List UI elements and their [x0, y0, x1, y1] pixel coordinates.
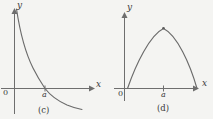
panel-d: y x 0 a (d) — [106, 0, 213, 119]
panel-c-origin-label: 0 — [3, 89, 8, 97]
panel-c-x-axis-label: x — [96, 80, 101, 89]
panel-d-curve — [128, 29, 198, 89]
panel-d-tick-label-a: a — [161, 91, 166, 99]
panel-c-plot — [0, 0, 106, 119]
panel-d-caption: (d) — [157, 104, 169, 113]
panel-d-y-axis-label: y — [127, 3, 132, 12]
panel-c-caption: (c) — [38, 106, 49, 115]
panel-d-plot — [106, 0, 213, 119]
panel-d-vertex-dot — [162, 27, 165, 30]
panel-c: y x 0 a (c) — [0, 0, 106, 119]
figure-container: y x 0 a (c) y x 0 a (d) — [0, 0, 213, 119]
panel-d-x-axis-label: x — [202, 79, 207, 88]
panel-c-y-axis-label: y — [17, 1, 22, 10]
panel-d-origin-label: 0 — [118, 90, 123, 98]
panel-c-tick-label-a: a — [42, 91, 47, 99]
panel-d-y-axis-arrowhead — [122, 12, 128, 18]
panel-c-x-axis-arrowhead — [89, 86, 95, 92]
panel-c-curve — [17, 9, 83, 110]
